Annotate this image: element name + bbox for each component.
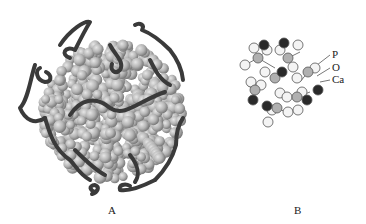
panel-a: A xyxy=(0,0,190,224)
legend: P O Ca xyxy=(332,48,344,85)
panel-b: P O Ca B xyxy=(225,30,366,150)
legend-ca: Ca xyxy=(332,73,344,85)
atoms xyxy=(240,38,323,127)
panel-a-label: A xyxy=(108,204,116,216)
legend-o: O xyxy=(332,61,340,73)
sphere-cluster-illustration xyxy=(0,0,190,224)
legend-p: P xyxy=(332,48,338,60)
panel-b-label: B xyxy=(294,204,301,216)
spheres xyxy=(38,40,187,184)
atom-cluster-illustration: P O Ca xyxy=(225,30,366,150)
